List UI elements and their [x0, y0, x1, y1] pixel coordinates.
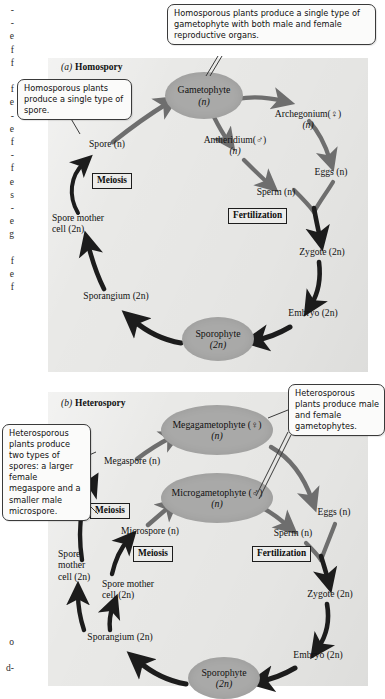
panel-a-caption: (a)Homospory — [61, 62, 123, 72]
bubble-gametophyte-line1: Gametophyte — [178, 84, 231, 95]
bubble-sporophyte-a-line2: (2n) — [210, 339, 226, 350]
label-spore-mother-cell-b-lower: Spore mother cell (2n) — [102, 578, 182, 601]
bubble-microgametophyte-line2: (n) — [211, 498, 222, 509]
bubble-microgametophyte-line1: Microgametophyte (♂) — [172, 487, 263, 498]
label-zygote-a: Zygote (2n) — [287, 246, 357, 257]
label-microspore: Microspore (n) — [106, 525, 194, 536]
panel-b-name: Heterospory — [72, 398, 125, 408]
label-zygote-b: Zygote (2n) — [295, 588, 365, 599]
bubble-sporophyte-a-line1: Sporophyte — [195, 328, 240, 339]
callout-homospory-spore: Homosporous plants produce a single type… — [17, 79, 132, 120]
process-meiosis-a: Meiosis — [92, 173, 132, 189]
label-megaspore: Megaspore (n) — [88, 455, 176, 466]
label-eggs-a: Eggs (n) — [302, 166, 360, 177]
panel-a-letter: (a) — [61, 62, 72, 72]
panel-a-name: Homospory — [72, 62, 123, 72]
bubble-gametophyte-line2: (n) — [198, 96, 209, 107]
panel-b-caption: (b)Heterospory — [61, 398, 126, 408]
bubble-sporophyte-a: Sporophyte (2n) — [182, 317, 254, 361]
callout-heterospory-gametophytes: Heterosporous plants produce male and fe… — [288, 384, 385, 436]
label-eggs-b: Eggs (n) — [305, 506, 363, 517]
callout-heterospory-spores: Heterosporous plants produce two types o… — [2, 424, 91, 521]
label-embryo-b: Embryo (2n) — [283, 649, 353, 660]
callout-homospory-gametophyte: Homosporous plants produce a single type… — [167, 4, 376, 45]
margin-text-bottom-fragment: o d- — [0, 636, 14, 676]
label-embryo-a: Embryo (2n) — [278, 307, 348, 318]
bubble-megagametophyte: Megagametophyte (♀) (n) — [161, 405, 273, 455]
process-fertilization-a: Fertilization — [228, 208, 287, 224]
label-antheridium: Antheridium(♂) (n) — [190, 134, 280, 157]
process-meiosis-b-lower: Meiosis — [133, 546, 173, 562]
bubble-gametophyte: Gametophyte (n) — [165, 72, 243, 119]
bubble-sporophyte-b-line2: (2n) — [216, 678, 232, 689]
label-sporangium-a: Sporangium (2n) — [68, 290, 164, 301]
label-sperm-a: Sperm (n) — [245, 186, 307, 197]
margin-text-top-fragment: - - e f f f e - e f - f e s - e g f e f — [0, 4, 14, 294]
label-sporangium-b: Sporangium (2n) — [72, 631, 168, 642]
label-spore-mother-cell-a: Spore mother cell (2n) — [52, 212, 132, 235]
panel-b-letter: (b) — [61, 398, 72, 408]
bubble-megagametophyte-line1: Megagametophyte (♀) — [172, 419, 261, 430]
bubble-microgametophyte: Microgametophyte (♂) (n) — [161, 473, 273, 523]
label-sperm-b: Sperm (n) — [262, 527, 324, 538]
bubble-sporophyte-b: Sporophyte (2n) — [188, 657, 260, 699]
bubble-megagametophyte-line2: (n) — [211, 430, 222, 441]
bubble-sporophyte-b-line1: Sporophyte — [201, 667, 246, 678]
process-fertilization-b: Fertilization — [252, 546, 311, 562]
label-spore-a: Spore (n) — [76, 138, 138, 149]
process-meiosis-b-upper: Meiosis — [90, 503, 130, 519]
label-archegonium: Archegonium(♀) (n) — [258, 108, 358, 131]
